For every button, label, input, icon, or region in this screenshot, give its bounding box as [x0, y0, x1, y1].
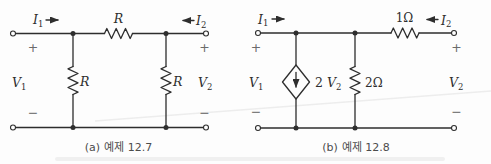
circuit-canvas: I1 I2 R R R V1 V2 + − + − (a)예제 12.7 — [0, 0, 491, 164]
junction-dot — [294, 31, 299, 36]
polarity-minus-left-b: − — [251, 104, 261, 119]
label-r-series-a: R — [113, 11, 123, 26]
polarity-plus-right-a: + — [199, 40, 209, 55]
caption-b: (b)예제 12.8 — [322, 141, 390, 154]
resistor-b-shunt — [350, 67, 360, 95]
port-terminal — [452, 126, 457, 131]
label-r-series-b: 1Ω — [396, 11, 414, 25]
label-i2-b: I2 — [440, 13, 451, 30]
junction-dot — [164, 125, 169, 130]
label-i1-a: I1 — [32, 12, 43, 29]
junction-dot — [164, 31, 169, 36]
label-r-shunt-b: 2Ω — [365, 76, 383, 90]
port-terminal — [204, 31, 209, 36]
junction-dot — [71, 125, 76, 130]
port-terminal — [11, 125, 16, 130]
label-v2-b: V2 — [449, 75, 463, 92]
port-terminal — [256, 31, 261, 36]
polarity-minus-left-a: − — [28, 105, 38, 120]
resistor-a-left-shunt — [68, 67, 78, 95]
port-terminal — [204, 125, 209, 130]
resistor-a-series — [105, 29, 133, 39]
label-i1-b: I1 — [257, 12, 268, 29]
resistor-b-series — [391, 28, 419, 38]
label-v1-b: V1 — [249, 75, 263, 92]
resistor-a-right-shunt — [161, 67, 171, 95]
label-v1-a: V1 — [12, 75, 26, 92]
port-terminal — [256, 126, 261, 131]
label-r-right-a: R — [172, 74, 182, 89]
label-r-left-a: R — [79, 74, 89, 89]
port-terminal — [452, 31, 457, 36]
label-v2-a: V2 — [198, 75, 212, 92]
junction-dot — [71, 31, 76, 36]
textbook-figure: I1 I2 R R R V1 V2 + − + − (a)예제 12.7 — [0, 0, 491, 164]
polarity-minus-right-a: − — [199, 105, 209, 120]
port-terminal — [11, 31, 16, 36]
circuit-a: I1 I2 R R R V1 V2 + − + − (a)예제 12.7 — [11, 11, 213, 154]
label-dep-source-b: 2 V2 — [315, 75, 341, 92]
polarity-plus-left-a: + — [28, 40, 38, 55]
junction-dot — [353, 31, 358, 36]
junction-dot — [353, 126, 358, 131]
circuit-b: I1 I2 1Ω 2 V2 2Ω V1 V2 + − + − (b)예제 12.… — [249, 11, 463, 154]
polarity-minus-right-b: − — [451, 104, 461, 119]
label-i2-a: I2 — [195, 13, 206, 30]
junction-dot — [294, 126, 299, 131]
caption-a: (a)예제 12.7 — [85, 141, 152, 154]
polarity-plus-left-b: + — [251, 40, 261, 55]
scan-shadow-artifact — [55, 157, 445, 161]
polarity-plus-right-b: + — [451, 40, 461, 55]
